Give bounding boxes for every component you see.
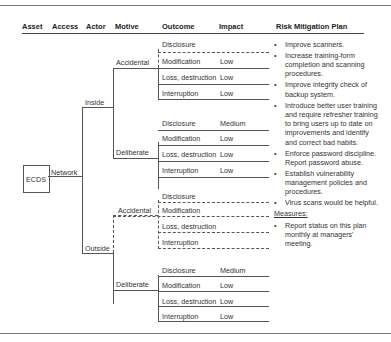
bottom-rule: [0, 333, 391, 334]
top-rule: [0, 5, 391, 6]
outcome-loss-destruction: Loss, destruction: [162, 297, 216, 306]
outside-accidental-label: Accidental: [118, 206, 151, 215]
inside-accidental-connector: [113, 68, 158, 69]
outcome-interruption: Interruption: [162, 166, 198, 175]
inside-deliberate-connector: [113, 158, 158, 159]
impact-value: Medium: [220, 266, 246, 275]
outcome-modification: Modification: [162, 281, 200, 290]
inside-motive-branch-line: [113, 68, 114, 158]
row-divider: [158, 306, 269, 307]
outcome-modification: Modification: [162, 57, 200, 66]
actor-inside-connector: [82, 107, 113, 108]
outcome-interruption: Interruption: [162, 89, 198, 98]
impact-value: Low: [220, 281, 233, 290]
outside-deliberate-branch-line: [113, 253, 114, 304]
bullet-icon: •: [274, 40, 277, 49]
plan-item: •Virus scans would be helpful.: [274, 198, 382, 207]
outcome-interruption: Interruption: [162, 312, 198, 321]
impact-value: Low: [220, 150, 233, 159]
impact-value: Low: [220, 134, 233, 143]
outcome-interruption: Interruption: [162, 238, 198, 247]
outcome-disclosure: Disclosure: [162, 119, 196, 128]
row-divider: [158, 145, 269, 146]
row-divider: [158, 84, 269, 85]
header-actor: Actor: [86, 22, 106, 31]
outside-deliberate-outcome-line: [158, 275, 159, 321]
impact-value: Low: [220, 73, 233, 82]
impact-value: Low: [220, 89, 233, 98]
plan-item: •Increase training-form completion and s…: [274, 51, 382, 79]
plan-item: •Improve integrity check of backup syste…: [274, 80, 382, 99]
header-impact: Impact: [219, 22, 243, 31]
actor-outside-connector: [82, 253, 113, 254]
row-divider-dashed: [113, 216, 269, 217]
row-divider: [158, 321, 269, 322]
outcome-disclosure: Disclosure: [162, 266, 196, 275]
outside-deliberate-connector: [113, 290, 158, 291]
impact-value: Low: [220, 166, 233, 175]
outcome-loss-destruction: Loss, destruction: [162, 222, 216, 231]
impact-value: Low: [220, 57, 233, 66]
row-divider: [158, 291, 269, 292]
row-divider-dashed: [158, 52, 269, 53]
row-divider: [158, 130, 269, 131]
plan-item: •Improve scanners.: [274, 40, 382, 49]
row-divider-dashed: [158, 248, 269, 249]
outcome-loss-destruction: Loss, destruction: [162, 150, 216, 159]
bullet-icon: •: [274, 51, 277, 60]
actor-branch-line: [82, 107, 83, 233]
actor-inside-label: Inside: [85, 98, 104, 107]
bullet-icon: •: [274, 149, 277, 158]
actor-branch-line-lower: [82, 233, 83, 253]
bullet-icon: •: [274, 169, 277, 178]
bullet-icon: •: [274, 198, 277, 207]
access-connector: [48, 176, 82, 177]
header-underline: [22, 33, 364, 34]
impact-value: Low: [220, 297, 233, 306]
outcome-modification: Modification: [162, 134, 200, 143]
row-divider: [158, 161, 269, 162]
outside-deliberate-label: Deliberate: [116, 280, 149, 289]
outcome-loss-destruction: Loss, destruction: [162, 73, 216, 82]
header-outcome: Outcome: [162, 22, 195, 31]
header-access: Access: [52, 22, 78, 31]
plan-item: •Establish vulnerability management poli…: [274, 169, 382, 197]
header-asset: Asset: [22, 22, 42, 31]
header-risk-mitigation-plan: Risk Mitigation Plan: [276, 22, 347, 31]
actor-outside-label: Outside: [85, 244, 110, 253]
row-divider-dashed: [158, 232, 269, 233]
row-divider: [158, 68, 269, 69]
impact-value: Low: [220, 312, 233, 321]
header-motive: Motive: [115, 22, 139, 31]
measure-item: •Report status on this plan monthly at m…: [274, 221, 382, 249]
outcome-modification: Modification: [162, 206, 200, 215]
row-divider: [158, 177, 269, 178]
outside-accidental-branch-dashed: [113, 215, 114, 253]
row-divider: [158, 276, 269, 277]
asset-label: ECDS: [26, 175, 46, 184]
inside-deliberate-label: Deliberate: [116, 148, 149, 157]
risk-mitigation-plan: •Improve scanners. •Increase training-fo…: [274, 40, 382, 250]
inside-deliberate-outcome-line: [158, 142, 159, 189]
plan-item: •Introduce better user training and requ…: [274, 101, 382, 147]
outcome-disclosure: Disclosure: [162, 40, 196, 49]
row-divider-dashed: [158, 202, 269, 203]
bullet-icon: •: [274, 80, 277, 89]
bullet-icon: •: [274, 221, 277, 230]
plan-item: •Enforce password discipline. Report pas…: [274, 149, 382, 168]
outside-accidental-outcome-line: [158, 200, 159, 249]
measures-heading: Measures:: [274, 209, 382, 218]
bullet-icon: •: [274, 101, 277, 110]
measures-list: •Report status on this plan monthly at m…: [274, 221, 382, 249]
outcome-disclosure: Disclosure: [162, 192, 196, 201]
impact-value: Medium: [220, 119, 246, 128]
plan-list: •Improve scanners. •Increase training-fo…: [274, 40, 382, 208]
row-divider: [158, 99, 269, 100]
inside-accidental-label: Accidental: [116, 58, 149, 67]
